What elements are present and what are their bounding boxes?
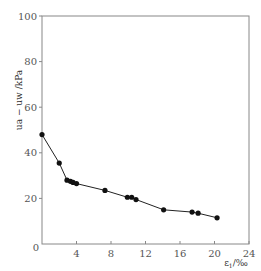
data-point xyxy=(57,160,62,165)
x-axis-label: ε1/‰ xyxy=(224,258,248,269)
svg-text:4: 4 xyxy=(73,248,79,259)
y-axis-label: ua − uw /kPa xyxy=(14,69,24,130)
svg-text:8: 8 xyxy=(108,248,114,259)
data-point xyxy=(214,215,219,220)
svg-text:20: 20 xyxy=(208,248,221,259)
svg-text:0: 0 xyxy=(33,242,39,253)
data-point xyxy=(196,211,201,216)
svg-text:12: 12 xyxy=(139,248,152,259)
data-point xyxy=(133,197,138,202)
svg-text:40: 40 xyxy=(24,147,37,158)
data-line xyxy=(42,135,217,218)
data-points xyxy=(39,132,219,220)
data-point xyxy=(74,181,79,186)
svg-text:16: 16 xyxy=(174,248,187,259)
data-point xyxy=(39,132,44,137)
data-point xyxy=(189,209,194,214)
line-chart: 20406080100 04812162024 ua − uw /kPa ε1/… xyxy=(0,0,261,271)
svg-text:80: 80 xyxy=(24,56,37,67)
plot-frame xyxy=(42,16,249,244)
svg-text:60: 60 xyxy=(24,102,37,113)
svg-text:100: 100 xyxy=(18,11,37,22)
data-point xyxy=(102,188,107,193)
svg-text:20: 20 xyxy=(24,193,37,204)
data-point xyxy=(161,207,166,212)
